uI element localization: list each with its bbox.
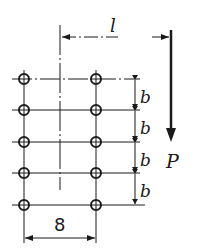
load-label: P xyxy=(165,150,180,172)
row-spacing-label: b xyxy=(140,150,151,170)
eccentricity-label: l xyxy=(110,15,116,36)
bolt-icon xyxy=(91,105,101,115)
row-spacing-label: b xyxy=(140,87,151,107)
load-arrow xyxy=(166,30,176,142)
row-lines xyxy=(12,79,145,205)
bolt-icon xyxy=(19,74,29,84)
column-spacing-label: 8 xyxy=(54,214,65,235)
row-spacing-label: b xyxy=(140,181,151,201)
bolt-icon xyxy=(19,200,29,210)
bolt-icon xyxy=(91,168,101,178)
bolt-icon xyxy=(19,168,29,178)
bolt-icon xyxy=(19,105,29,115)
bolt-icon xyxy=(91,137,101,147)
row-spacing-label: b xyxy=(140,118,151,138)
bolt-group-diagram: l P b b b b xyxy=(0,0,197,251)
bolt-icon xyxy=(91,74,101,84)
bolt-icon xyxy=(91,200,101,210)
bolt-icon xyxy=(19,137,29,147)
